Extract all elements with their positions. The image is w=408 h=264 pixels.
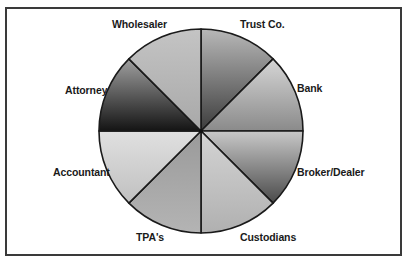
label-tpas: TPA's <box>136 231 164 243</box>
label-attorney: Attorney <box>65 84 107 96</box>
label-bank: Bank <box>297 82 322 94</box>
label-trust-co: Trust Co. <box>240 18 285 30</box>
segment-wheel <box>0 0 408 264</box>
label-broker-dealer: Broker/Dealer <box>297 166 365 178</box>
label-custodians: Custodians <box>240 231 296 243</box>
label-accountant: Accountant <box>53 166 110 178</box>
label-wholesaler: Wholesaler <box>112 18 167 30</box>
